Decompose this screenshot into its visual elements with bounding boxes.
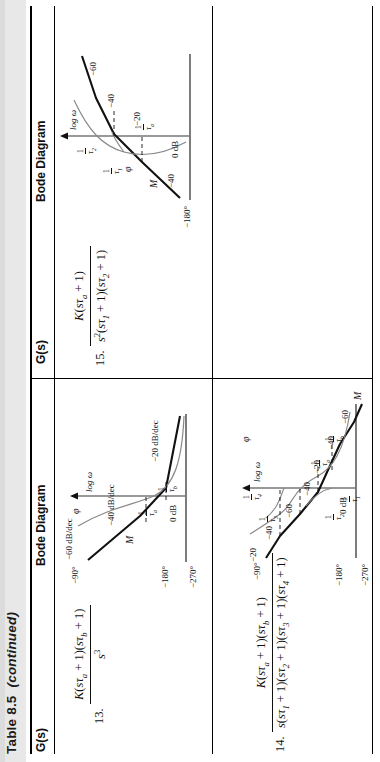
bode-15-magnitude-label: M	[148, 180, 159, 188]
equation-13-numerator: K(sτa + 1)(sτb + 1)	[72, 605, 90, 704]
bode-diagram-14: −20 −40 −60 −40 −20 −40 −60 M φ 0 dB log…	[236, 380, 372, 562]
bode-15-zero-db-label: 0 dB	[170, 141, 180, 158]
bode-13-slope-1: −40 dB/dec	[106, 484, 116, 526]
bode-15-phase-label: φ	[122, 166, 133, 172]
bode-13-break-freq-0: 1τa	[137, 510, 158, 516]
bode-diagram-15: −40 −20 −40 −60 M φ 0 dB log ω 1τa 1τ1 1…	[56, 22, 206, 202]
column-header-gs-left: G(s)	[34, 728, 48, 752]
bode-15-svg	[56, 22, 206, 202]
bode-14-break-freq-0: 1τ1	[340, 496, 361, 502]
equation-14: 14. K(sτa + 1)(sτb + 1) s(sτ1 + 1)(sτ2 +…	[254, 553, 290, 732]
bode-14-phase-tick-2: −270°	[360, 564, 370, 586]
bode-15-phase-tick-0: −180°	[182, 206, 192, 228]
entry-index-15: 15.	[93, 350, 108, 366]
bode-diagram-13: −60 dB/dec −40 dB/dec −20 dB/dec M φ 0 d…	[62, 386, 202, 566]
entry-index-14: 14.	[273, 736, 288, 752]
bode-14-slope-3: −40	[302, 482, 312, 496]
equation-15-numerator: K(sτa + 1)	[72, 246, 90, 346]
bode-13-zero-db-label: 0 dB	[168, 505, 178, 522]
bode-13-slope-0: −60 dB/dec	[64, 518, 74, 560]
bode-14-magnitude-label: M	[352, 392, 363, 400]
bode-13-slope-2: −20 dB/dec	[150, 420, 160, 462]
column-header-gs-right: G(s)	[34, 340, 48, 364]
bode-14-slope-6: −60	[340, 410, 350, 424]
bode-14-slope-1: −40	[264, 526, 274, 540]
header-rule-top	[30, 6, 32, 754]
entry-index-13: 13.	[92, 708, 107, 724]
bode-15-break-freq-1: 1τ1	[102, 168, 123, 174]
equation-15-denominator: s2(sτ1 + 1)(sτ2 + 1)	[90, 246, 111, 346]
bode-13-magnitude-label: M	[124, 536, 135, 544]
table-number: Table 8.5	[4, 695, 19, 754]
bode-14-break-freq-1: 1τ2	[324, 514, 345, 520]
bode-15-slope-3: −60	[88, 62, 98, 76]
table-sheet: Table 8.5 (continued) G(s) Bode Diagram …	[0, 0, 380, 762]
rotated-page: Table 8.5 (continued) G(s) Bode Diagram …	[0, 0, 380, 762]
equation-15: 15. K(sτa + 1) s2(sτ1 + 1)(sτ2 + 1)	[72, 246, 110, 346]
table-bottom-rule	[372, 6, 373, 754]
bode-13-phase-tick-1: −180°	[160, 566, 170, 588]
equation-14-denominator: s(sτ1 + 1)(sτ2 + 1)(sτ3 + 1)(sτ4 + 1)	[272, 553, 291, 732]
bode-14-phase-tick-0: −90°	[252, 562, 262, 580]
bode-14-break-freq-5: 1τ4	[242, 494, 263, 500]
header-rule-bottom	[54, 6, 55, 754]
bode-14-slope-0: −20	[248, 548, 258, 562]
bode-15-break-freq-2: 1τ2	[76, 148, 97, 154]
bode-14-break-freq-3: 1τb	[324, 436, 345, 442]
bode-14-phase-label: φ	[240, 436, 251, 442]
bode-13-phase-label: φ	[70, 508, 81, 514]
equation-13: 13. K(sτa + 1)(sτb + 1) s3	[72, 605, 109, 704]
bode-14-x-axis-label: log ω	[252, 462, 262, 482]
column-pair-separator	[30, 378, 373, 379]
bode-13-phase-tick-0: −90°	[70, 566, 80, 584]
bode-15-x-axis-label: log ω	[68, 110, 78, 130]
bode-13-x-axis-label: log ω	[84, 472, 94, 492]
bode-15-break-freq-0: 1τa	[134, 124, 155, 130]
column-header-bode-left: Bode Diagram	[34, 485, 48, 566]
row-divider-rule	[212, 6, 213, 754]
bode-15-slope-2: −40	[106, 94, 116, 108]
bode-14-break-freq-4: 1τ3	[258, 516, 279, 522]
bode-13-break-freq-1: 1τb	[157, 486, 178, 492]
table-continued-label: (continued)	[4, 612, 19, 688]
bode-14-break-freq-2: 1τa	[310, 460, 331, 466]
equation-13-denominator: s3	[90, 605, 109, 704]
bode-15-slope-0: −40	[166, 174, 176, 188]
bode-13-phase-tick-2: −270°	[188, 566, 198, 588]
page-title: Table 8.5 (continued)	[4, 612, 19, 754]
bode-14-slope-2: −60	[284, 504, 294, 518]
equation-14-numerator: K(sτa + 1)(sτb + 1)	[254, 553, 272, 732]
bode-14-phase-tick-1: −180°	[334, 564, 344, 586]
column-header-bode-right: Bode Diagram	[34, 121, 48, 202]
